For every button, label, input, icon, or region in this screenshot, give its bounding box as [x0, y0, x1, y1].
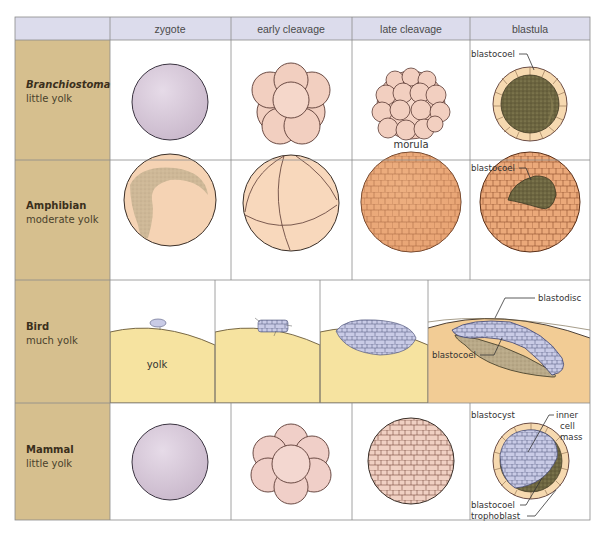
column-header-early-cleavage: early cleavage — [257, 23, 325, 35]
label-mass: mass — [560, 432, 583, 442]
label-blastocyst: blastocyst — [471, 410, 516, 420]
column-header-blastula: blastula — [512, 23, 548, 35]
row-subtitle-bird: much yolk — [26, 335, 78, 346]
bird-early-cleavage — [215, 318, 320, 403]
label-yolk: yolk — [147, 359, 168, 370]
embryo-cleavage-diagram: zygote early cleavage late cleavage blas… — [0, 0, 602, 542]
branchiostoma-zygote — [132, 64, 208, 140]
amphibian-early-cleavage — [243, 155, 339, 251]
label-blastocoel-amphibian: blastocoel — [471, 163, 515, 173]
amphibian-late-cleavage — [361, 152, 461, 252]
label-inner: inner — [556, 410, 579, 420]
row-subtitle-branchiostoma: little yolk — [26, 93, 72, 104]
label-cell: cell — [560, 421, 575, 431]
column-header-zygote: zygote — [155, 23, 186, 35]
mammal-late-cleavage — [368, 418, 454, 504]
row-subtitle-amphibian: moderate yolk — [26, 214, 99, 225]
label-blastocoel-branchiostoma: blastocoel — [471, 49, 515, 59]
column-header-late-cleavage: late cleavage — [380, 23, 442, 35]
bird-blastula — [428, 318, 590, 403]
mammal-early-cleavage — [251, 424, 331, 504]
row-subtitle-mammal: little yolk — [26, 458, 72, 469]
bird-late-cleavage — [320, 320, 428, 403]
label-blastodisc: blastodisc — [538, 293, 582, 303]
amphibian-zygote — [124, 154, 216, 246]
branchiostoma-late-cleavage — [372, 68, 450, 140]
mammal-zygote — [132, 424, 208, 500]
mammal-blastula — [493, 423, 569, 499]
row-title-mammal: Mammal — [26, 444, 74, 455]
row-title-branchiostoma: Branchiostoma — [26, 79, 111, 90]
leader-line — [495, 298, 535, 318]
label-blastocoel-mammal: blastocoel — [471, 500, 515, 510]
label-blastocoel-bird: blastocoel — [432, 350, 476, 360]
label-morula: morula — [393, 139, 428, 150]
branchiostoma-early-cleavage — [252, 63, 330, 144]
row-title-bird: Bird — [26, 321, 49, 332]
branchiostoma-blastula — [493, 67, 567, 141]
row-title-amphibian: Amphibian — [26, 200, 86, 211]
label-trophoblast: trophoblast — [471, 511, 521, 521]
